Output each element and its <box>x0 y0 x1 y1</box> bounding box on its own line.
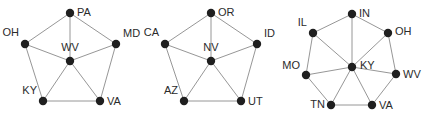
node-label-md: MD <box>123 27 140 39</box>
node-label-il: IL <box>298 16 307 28</box>
graph-node-pa[interactable] <box>66 9 74 17</box>
node-label-az: AZ <box>164 84 178 96</box>
graphs-canvas: PAOHMDWVKYVAORCAIDNVAZUTINILOHMOKYWVTNVA <box>0 0 434 120</box>
graph-node-ca[interactable] <box>161 40 169 48</box>
graph-node-az[interactable] <box>180 97 188 105</box>
node-label-va: VA <box>379 99 394 111</box>
node-label-oh: OH <box>395 25 412 37</box>
graph-edge <box>241 44 257 101</box>
graph-edge <box>313 33 352 67</box>
graph-node-wv[interactable] <box>66 57 74 65</box>
graph-node-or[interactable] <box>207 9 215 17</box>
node-label-ut: UT <box>248 95 263 107</box>
node-label-nv: NV <box>203 41 219 53</box>
graph-node-wv[interactable] <box>392 70 400 78</box>
graph-edge <box>306 33 313 75</box>
graph-edge <box>43 61 70 101</box>
node-label-wv: WV <box>403 68 421 80</box>
graph-edge <box>388 33 396 74</box>
graph-node-il[interactable] <box>309 29 317 37</box>
graph-edge <box>165 13 211 44</box>
graph-3-edges <box>306 14 396 105</box>
node-label-ky: KY <box>22 84 37 96</box>
graph-node-oh[interactable] <box>384 29 392 37</box>
graph-node-md[interactable] <box>112 40 120 48</box>
node-label-or: OR <box>218 6 235 18</box>
node-label-tn: TN <box>310 98 325 110</box>
node-label-pa: PA <box>77 6 92 18</box>
graph-edge <box>331 67 352 105</box>
graph-edge <box>352 14 388 33</box>
node-label-oh: OH <box>3 26 20 38</box>
graph-edge <box>313 14 352 33</box>
node-label-va: VA <box>107 95 122 107</box>
graph-node-ky[interactable] <box>348 63 356 71</box>
node-label-ca: CA <box>144 26 160 38</box>
graph-edge <box>184 61 211 101</box>
graph-node-tn[interactable] <box>327 101 335 109</box>
node-label-ky: KY <box>360 59 375 71</box>
graph-edge <box>100 44 116 101</box>
graph-3-nodes <box>302 10 400 109</box>
graph-figure: PAOHMDWVKYVAORCAIDNVAZUTINILOHMOKYWVTNVA <box>0 0 434 120</box>
graph-node-oh[interactable] <box>21 40 29 48</box>
graph-2-labels: ORCAIDNVAZUT <box>144 6 275 107</box>
node-label-in: IN <box>359 7 370 19</box>
graph-node-mo[interactable] <box>302 71 310 79</box>
graph-edge <box>70 61 100 101</box>
graph-edge <box>211 61 241 101</box>
graph-node-nv[interactable] <box>207 57 215 65</box>
graph-node-ut[interactable] <box>237 97 245 105</box>
graph-node-id[interactable] <box>253 40 261 48</box>
graph-edge <box>352 67 372 105</box>
graph-node-in[interactable] <box>348 10 356 18</box>
graph-1-labels: PAOHMDWVKYVA <box>3 6 141 107</box>
graph-node-ky[interactable] <box>39 97 47 105</box>
graph-edge <box>25 13 70 44</box>
graph-node-va[interactable] <box>96 97 104 105</box>
node-label-wv: WV <box>61 41 79 53</box>
node-label-mo: MO <box>282 59 300 71</box>
graph-edge <box>306 67 352 75</box>
node-label-id: ID <box>264 27 275 39</box>
graph-node-va[interactable] <box>368 101 376 109</box>
